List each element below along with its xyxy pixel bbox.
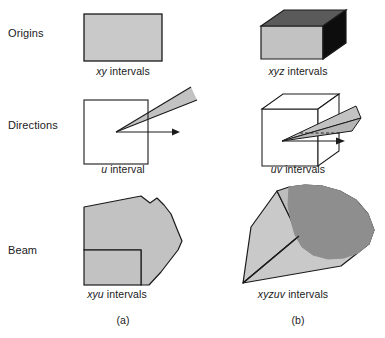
caption-xyu-intervals: xyu intervals bbox=[57, 288, 177, 300]
panel-label-a: (a) bbox=[63, 314, 183, 326]
caption-xyz-intervals: xyz intervals bbox=[238, 65, 358, 77]
xyz-interval-box bbox=[261, 10, 346, 59]
caption-uv-intervals: uv intervals bbox=[238, 163, 358, 175]
caption-uv-symbol: uv bbox=[271, 163, 282, 175]
xyu-origin-rectangle bbox=[84, 250, 141, 285]
row-label-origins: Origins bbox=[8, 27, 44, 39]
row-label-directions: Directions bbox=[8, 119, 58, 131]
caption-xyzuv-intervals: xyzuv intervals bbox=[233, 288, 353, 300]
caption-u-interval: u interval bbox=[63, 163, 183, 175]
caption-uv-text: intervals bbox=[282, 163, 325, 175]
caption-xyzuv-text: intervals bbox=[285, 288, 328, 300]
uv-interval-figure bbox=[262, 94, 361, 166]
u-direction-arrow-head bbox=[172, 129, 180, 136]
uv-direction-arrow-head bbox=[336, 137, 345, 144]
u-wedge-lower-edge bbox=[116, 100, 197, 132]
xy-rect-body bbox=[84, 14, 162, 61]
caption-xyz-text: intervals bbox=[285, 65, 328, 77]
u-interval-figure bbox=[84, 87, 197, 164]
xyzuv-beam-figure bbox=[243, 185, 374, 283]
caption-xy-symbol: xy bbox=[96, 65, 107, 77]
figure-container: Origins Directions Beam xy intervals xyz… bbox=[0, 0, 385, 338]
caption-xy-intervals: xy intervals bbox=[63, 65, 183, 77]
xyz-box-front-face bbox=[261, 26, 323, 59]
u-wedge-upper-edge bbox=[116, 87, 191, 132]
row-label-beam: Beam bbox=[8, 244, 37, 256]
caption-xyu-text: intervals bbox=[104, 288, 147, 300]
caption-xy-text: intervals bbox=[107, 65, 150, 77]
xy-interval-rectangle bbox=[84, 14, 162, 61]
panel-label-b: (b) bbox=[238, 314, 358, 326]
caption-u-text: interval bbox=[107, 163, 145, 175]
caption-xyz-symbol: xyz bbox=[268, 65, 284, 77]
xyu-beam-figure bbox=[84, 196, 182, 285]
caption-xyzuv-symbol: xyzuv bbox=[258, 288, 285, 300]
caption-xyu-symbol: xyu bbox=[87, 288, 104, 300]
